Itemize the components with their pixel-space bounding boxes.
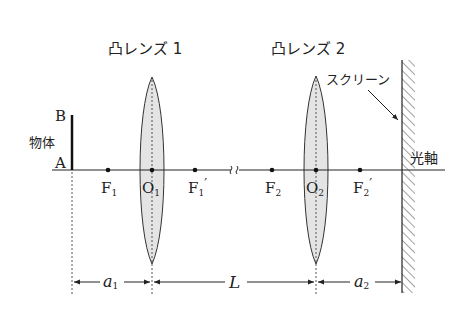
center-o2-dot — [314, 168, 319, 173]
focus-f2-label: F2 — [265, 179, 281, 198]
center-o1-dot — [150, 168, 155, 173]
optical-axis — [52, 166, 445, 174]
screen — [402, 60, 415, 293]
focus-f2prime-label: F2′ — [353, 176, 372, 198]
screen-label: スクリーン — [326, 72, 390, 87]
focus-f2prime-dot — [358, 168, 363, 173]
optical-axis-label: 光軸 — [410, 150, 438, 166]
object-label: 物体 — [29, 135, 55, 150]
lens-2-title: 凸レンズ 2 — [271, 40, 345, 58]
lens-1-title: 凸レンズ 1 — [108, 40, 182, 58]
screen-pointer-arrow — [368, 90, 398, 120]
dimension-a1-label: a1 — [103, 272, 118, 291]
break-mark-right — [236, 166, 238, 174]
focus-f1prime-dot — [193, 168, 198, 173]
point-a-label: A — [54, 154, 66, 172]
point-b-label: B — [55, 107, 66, 125]
optics-diagram: 凸レンズ 1 凸レンズ 2 スクリーン 光軸 B 物体 A F1 O1 F1′ … — [0, 0, 473, 320]
focus-f2-dot — [270, 168, 275, 173]
focus-f1-label: F1 — [101, 179, 117, 198]
focus-f1prime-label: F1′ — [188, 176, 207, 198]
focus-f1-dot — [106, 168, 111, 173]
dimension-l-label: L — [228, 272, 240, 292]
dimension-a2-label: a2 — [354, 272, 369, 291]
